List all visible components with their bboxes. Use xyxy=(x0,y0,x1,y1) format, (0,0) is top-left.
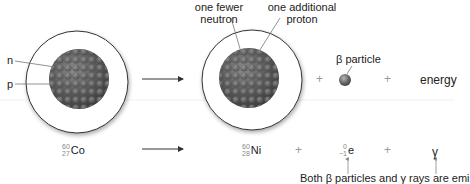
bottom-plus-2: + xyxy=(384,143,391,157)
top-plus-1: + xyxy=(316,72,323,86)
cobalt-isotope: 6027Co xyxy=(62,143,85,157)
proton-label: p xyxy=(7,78,13,90)
nickel-atomic-number: 28 xyxy=(242,150,250,157)
beta-leader-line xyxy=(347,66,352,74)
gamma-symbol: γ xyxy=(432,146,438,158)
fewer-neutron-label: one fewer neutron xyxy=(184,1,254,25)
electron-letter: e xyxy=(348,144,354,156)
additional-proton-line1: one additional xyxy=(262,1,342,13)
fewer-neutron-line1: one fewer xyxy=(184,1,254,13)
electron-charge-number: −1 xyxy=(339,150,347,157)
top-plus-2: + xyxy=(384,72,391,86)
electron-symbol: 0−1e xyxy=(339,143,354,157)
electron-mass-number: 0 xyxy=(339,143,347,150)
emission-note: Both β particles and γ rays are emi xyxy=(300,172,470,184)
nickel-atom xyxy=(202,18,302,130)
nickel-isotope: 6028Ni xyxy=(242,143,261,157)
nickel-symbol: Ni xyxy=(251,144,261,156)
bottom-plus-1: + xyxy=(295,143,302,157)
cobalt-symbol: Co xyxy=(71,144,85,156)
cobalt-atom xyxy=(15,31,128,133)
beta-particle-sphere xyxy=(339,74,351,86)
nickel-mass-number: 60 xyxy=(242,143,250,150)
cobalt-mass-number: 60 xyxy=(62,143,70,150)
additional-proton-label: one additional proton xyxy=(262,1,342,25)
fewer-neutron-line2: neutron xyxy=(184,13,254,25)
cobalt-atomic-number: 27 xyxy=(62,150,70,157)
additional-proton-line2: proton xyxy=(262,13,342,25)
neutron-label: n xyxy=(7,54,13,66)
beta-particle-label: β particle xyxy=(336,53,381,65)
energy-label: energy xyxy=(420,74,457,86)
